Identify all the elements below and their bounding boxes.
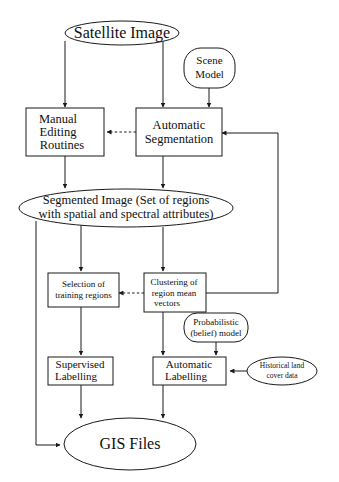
gis-files-label: GIS Files (100, 435, 161, 452)
node-gis-files[interactable]: GIS Files (64, 418, 196, 470)
automatic-labelling-label-line1: Automatic (166, 358, 213, 370)
diagram-canvas: Satellite Image Scene Model Manual Editi… (0, 0, 339, 482)
node-selection-training-regions[interactable]: Selection of training regions (48, 273, 119, 307)
manual-editing-label-line3: Routines (40, 138, 85, 152)
clustering-label-line1: Clustering of (150, 277, 197, 287)
historical-data-label-line2: cover data (266, 371, 298, 380)
node-historical-land-cover-data[interactable]: Historical land cover data (247, 357, 317, 385)
node-scene-model[interactable]: Scene Model (184, 48, 235, 88)
flowchart-diagram: Satellite Image Scene Model Manual Editi… (0, 0, 339, 482)
automatic-labelling-label-line2: Labelling (165, 370, 208, 382)
node-satellite-image[interactable]: Satellite Image (65, 21, 179, 45)
scene-model-label-line1: Scene (196, 54, 222, 66)
clustering-label-line2: region mean (152, 288, 197, 298)
selection-training-label-line1: Selection of (62, 279, 105, 289)
automatic-segmentation-label-line1: Automatic (153, 118, 206, 132)
supervised-labelling-label-line2: Labelling (55, 370, 98, 382)
satellite-image-label: Satellite Image (74, 24, 170, 42)
manual-editing-label-line2: Editing (40, 125, 78, 139)
node-probabilistic-belief-model[interactable]: Probabilistic (belief) model (184, 313, 248, 342)
probabilistic-model-label-line2: (belief) model (190, 328, 242, 338)
node-segmented-image[interactable]: Segmented Image (Set of regions with spa… (19, 189, 233, 227)
node-automatic-segmentation[interactable]: Automatic Segmentation (136, 108, 222, 156)
selection-training-label-line2: training regions (55, 290, 112, 300)
probabilistic-model-label-line1: Probabilistic (193, 317, 239, 327)
edge-segmented-to-gis (36, 221, 60, 445)
manual-editing-label-line1: Manual (39, 112, 78, 126)
automatic-segmentation-label-line2: Segmentation (145, 132, 214, 146)
node-manual-editing-routines[interactable]: Manual Editing Routines (26, 108, 104, 156)
supervised-labelling-label-line1: Supervised (56, 358, 105, 370)
node-automatic-labelling[interactable]: Automatic Labelling (153, 357, 226, 385)
segmented-image-label-line2: with spatial and spectral attributes) (39, 207, 214, 221)
clustering-label-line3: vectors (154, 298, 180, 308)
scene-model-label-line2: Model (195, 68, 224, 80)
node-supervised-labelling[interactable]: Supervised Labelling (48, 357, 113, 385)
historical-data-label-line1: Historical land (260, 361, 305, 370)
node-clustering-region-mean-vectors[interactable]: Clustering of region mean vectors (144, 273, 206, 312)
segmented-image-label-line1: Segmented Image (Set of regions (43, 193, 210, 207)
